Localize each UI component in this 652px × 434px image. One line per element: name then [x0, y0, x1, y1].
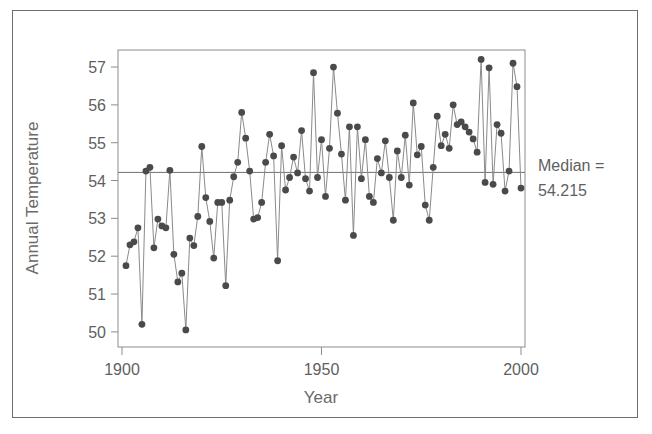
- figure-root: 5051525354555657 190019502000 Annual Tem…: [0, 0, 652, 434]
- temperature-time-series-chart: 5051525354555657 190019502000 Annual Tem…: [0, 0, 652, 434]
- svg-text:55: 55: [88, 135, 106, 152]
- y-axis-title: Annual Temperature: [23, 122, 42, 275]
- svg-text:1950: 1950: [304, 361, 340, 378]
- svg-text:52: 52: [88, 248, 106, 265]
- plot-area: 5051525354555657 190019502000: [88, 50, 539, 378]
- x-axis-title: Year: [304, 388, 339, 407]
- svg-text:1900: 1900: [104, 361, 140, 378]
- svg-text:2000: 2000: [503, 361, 539, 378]
- svg-text:53: 53: [88, 210, 106, 227]
- svg-text:50: 50: [88, 324, 106, 341]
- svg-text:54: 54: [88, 173, 106, 190]
- y-axis-ticks: 5051525354555657: [88, 59, 118, 341]
- x-axis-ticks: 190019502000: [104, 347, 539, 378]
- median-annotation-label: Median =: [538, 157, 604, 174]
- svg-text:51: 51: [88, 286, 106, 303]
- svg-text:56: 56: [88, 97, 106, 114]
- median-annotation-value: 54.215: [538, 182, 587, 199]
- svg-text:57: 57: [88, 59, 106, 76]
- plot-background: [118, 50, 525, 347]
